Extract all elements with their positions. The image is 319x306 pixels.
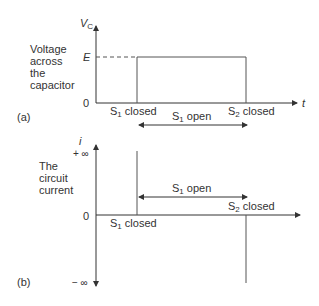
ylabel-b-line2: circuit [39,172,68,184]
axis-label-vc: VC [80,17,93,31]
s2-closed-label-b: S2 closed [228,200,275,214]
ylabel-b-line3: current [39,184,73,196]
ylabel-b-line1: The [39,160,58,172]
tick-pos-inf: + ∞ [73,148,89,159]
panel-label-b: (b) [17,276,30,288]
tick-neg-inf: − ∞ [72,277,88,288]
switching-diagram: Voltage across the capacitor VC E 0 t S1… [0,0,319,306]
ylabel-a-line3: the [30,67,45,79]
s1-open-label-a: S1 open [172,110,211,124]
s1-closed-label-a: S1 closed [110,105,157,119]
panel-a: Voltage across the capacitor VC E 0 t S1… [17,17,306,125]
tick-zero-a: 0 [83,97,89,109]
voltage-pulse [137,57,246,103]
s1-closed-label-b: S1 closed [110,217,157,231]
axis-label-i: i [79,135,82,147]
panel-label-a: (a) [17,111,30,123]
axis-label-t: t [302,97,306,109]
ylabel-a-line4: capacitor [30,79,75,91]
panel-b: i + ∞ 0 − ∞ The circuit current S1 open … [17,135,300,288]
tick-e: E [83,51,91,63]
ylabel-a-line1: Voltage [30,43,67,55]
ylabel-a-line2: across [30,55,63,67]
s2-closed-label-a: S2 closed [228,105,275,119]
tick-zero-b: 0 [83,210,89,222]
s1-open-label-b: S1 open [172,182,211,196]
